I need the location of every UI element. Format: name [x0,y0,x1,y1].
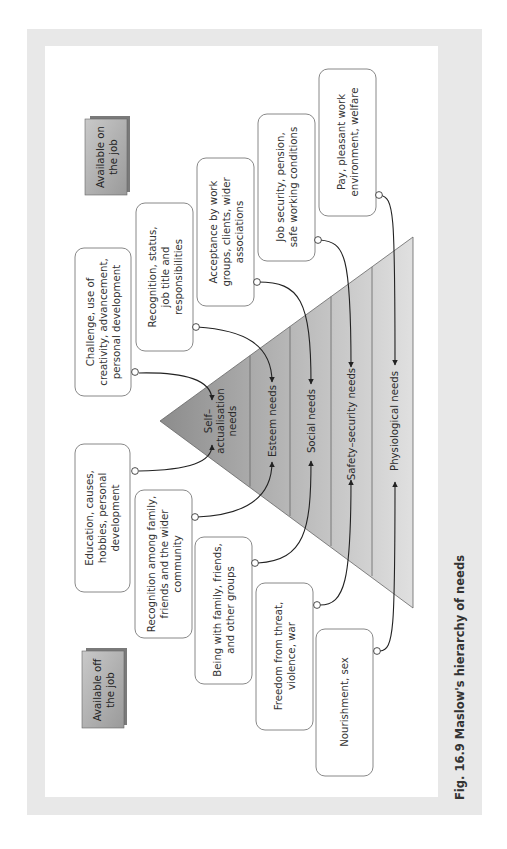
svg-text:the job: the job [105,672,116,708]
svg-text:the job: the job [108,139,119,175]
level-social: Social needs [306,389,317,453]
svg-text:Available off: Available off [92,658,103,722]
svg-text:needs: needs [227,406,238,437]
svg-text:safe working conditions: safe working conditions [288,127,299,248]
header-off-job: Available off the job [82,648,127,728]
svg-text:Challenge, use of: Challenge, use of [85,277,96,366]
off-job-box-esteem: Recognition among family, friends and th… [135,490,192,638]
svg-text:Nourishment, sex: Nourishment, sex [339,657,350,747]
svg-text:personal development: personal development [111,265,122,379]
svg-text:responsibilities: responsibilities [173,239,184,315]
on-job-box-physiological: Pay, pleasant work environment, welfare [319,69,376,216]
svg-text:Job security, pension,: Job security, pension, [275,132,286,242]
svg-text:development: development [110,484,121,551]
svg-text:community: community [172,535,183,592]
svg-text:Self–: Self– [203,409,214,433]
svg-text:Pay, pleasant work: Pay, pleasant work [336,94,347,190]
on-job-box-esteem: Recognition, status, job title and respo… [136,203,193,351]
svg-text:associations: associations [234,201,245,264]
header-on-job: Available on the job [85,116,130,195]
svg-text:Education, causes,: Education, causes, [84,470,95,566]
svg-text:Acceptance by work: Acceptance by work [208,180,219,283]
off-job-box-social: Being with family, friends, and other gr… [195,537,252,684]
svg-text:Available on: Available on [95,126,106,188]
svg-text:job title and: job title and [160,246,171,308]
level-physiological: Physiological needs [389,371,400,471]
svg-text:Recognition, status,: Recognition, status, [147,226,158,327]
svg-text:environment, welfare: environment, welfare [349,88,360,197]
svg-text:actualisation: actualisation [215,388,226,453]
off-job-box-safety: Freedom from threat, violence, war [256,583,313,730]
level-safety: Safety–security needs [346,368,357,480]
on-job-box-self-actualisation: Challenge, use of creativity, advancemen… [75,248,131,396]
svg-text:creativity, advancement,: creativity, advancement, [98,258,109,385]
off-job-box-physiological: Nourishment, sex [316,629,373,776]
svg-text:Recognition among family,: Recognition among family, [146,496,157,632]
svg-text:groups, clients, wider: groups, clients, wider [221,177,232,287]
on-job-box-social: Acceptance by work groups, clients, wide… [197,158,254,306]
maslow-figure: Self– actualisation needs Esteem needs S… [0,0,507,849]
svg-text:violence, war: violence, war [286,621,297,690]
svg-text:Being with family, friends,: Being with family, friends, [212,543,223,676]
level-esteem: Esteem needs [267,385,278,457]
svg-text:Freedom from threat,: Freedom from threat, [273,602,284,711]
svg-text:hobbies, personal: hobbies, personal [97,473,108,564]
svg-text:and other groups: and other groups [225,566,236,654]
on-job-box-safety: Job security, pension, safe working cond… [258,114,315,261]
off-job-box-self-actualisation: Education, causes, hobbies, personal dev… [75,444,130,592]
svg-text:friends and the wider: friends and the wider [159,509,170,619]
figure-caption: Fig. 16.9 Maslow's hierarchy of needs [453,555,467,800]
